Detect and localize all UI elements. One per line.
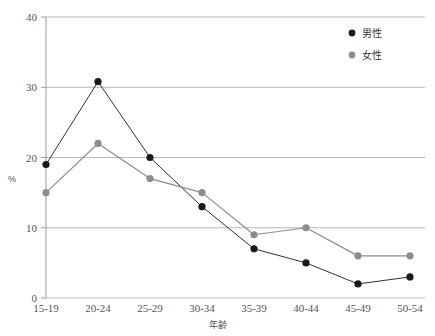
data-point [406, 252, 413, 259]
x-tick-label: 20-24 [85, 302, 111, 314]
legend-label: 女性 [362, 49, 382, 61]
data-point [198, 189, 205, 196]
data-point [250, 231, 257, 238]
data-point [146, 154, 153, 161]
y-tick-label: 10 [26, 222, 38, 234]
chart-canvas: 010203040 15-1920-2425-2930-3435-3940-44… [0, 0, 435, 336]
x-axis-title: 年齢 [209, 319, 227, 330]
y-tick-label: 20 [26, 152, 38, 164]
x-tick-label: 15-19 [33, 302, 59, 314]
x-tick-label: 40-44 [293, 302, 319, 314]
legend-label: 男性 [362, 27, 382, 39]
x-tick-label: 25-29 [137, 302, 163, 314]
data-point [302, 224, 309, 231]
y-tick-label: 30 [26, 81, 38, 93]
data-point [42, 161, 49, 168]
x-tick-label: 50-54 [397, 302, 423, 314]
data-point [146, 175, 153, 182]
data-point [354, 252, 361, 259]
y-axis-title: % [8, 174, 16, 184]
x-tick-label: 45-49 [345, 302, 371, 314]
x-tick-label: 30-34 [189, 302, 215, 314]
data-point [198, 203, 205, 210]
data-point [250, 245, 257, 252]
data-point [42, 189, 49, 196]
data-point [94, 140, 101, 147]
data-point [302, 259, 309, 266]
x-tick-label: 35-39 [241, 302, 267, 314]
line-chart: 010203040 15-1920-2425-2930-3435-3940-44… [0, 0, 435, 336]
data-point [94, 78, 101, 85]
data-point [406, 273, 413, 280]
legend-marker [349, 30, 356, 37]
y-tick-label: 40 [26, 11, 38, 23]
legend-marker [349, 52, 356, 59]
data-point [354, 280, 361, 287]
